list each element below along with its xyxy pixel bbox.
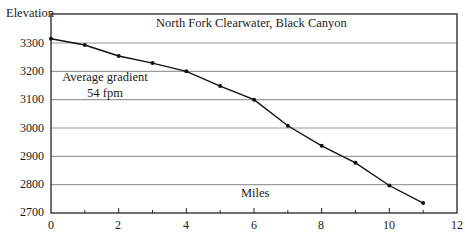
data-point xyxy=(387,184,391,188)
y-tick-3300: 3300 xyxy=(0,36,44,51)
data-point xyxy=(151,61,155,65)
y-tick-3100: 3100 xyxy=(0,92,44,107)
x-axis-label: Miles xyxy=(241,186,269,201)
data-point xyxy=(218,84,222,88)
x-tick-6: 6 xyxy=(239,218,269,233)
x-tick-2: 2 xyxy=(103,218,133,233)
data-point xyxy=(117,54,121,58)
data-point xyxy=(286,124,290,128)
x-tick-8: 8 xyxy=(306,218,336,233)
annotation-line-1: Average gradient xyxy=(60,69,150,85)
y-tick-2900: 2900 xyxy=(0,149,44,164)
gradient-annotation: Average gradient 54 fpm xyxy=(60,69,150,101)
y-tick-3200: 3200 xyxy=(0,64,44,79)
chart-title: North Fork Clearwater, Black Canyon xyxy=(156,16,347,31)
x-tick-12: 12 xyxy=(442,218,465,233)
data-point xyxy=(49,37,53,41)
y-tick-2800: 2800 xyxy=(0,177,44,192)
y-axis-label: Elevation xyxy=(6,6,54,21)
x-tick-4: 4 xyxy=(171,218,201,233)
data-point xyxy=(252,98,256,102)
data-point xyxy=(320,144,324,148)
data-point xyxy=(421,201,425,205)
plot-frame xyxy=(51,14,457,213)
data-point xyxy=(184,69,188,73)
x-tick-10: 10 xyxy=(374,218,404,233)
elevation-chart: Elevation North Fork Clearwater, Black C… xyxy=(0,0,465,243)
annotation-line-2: 54 fpm xyxy=(60,85,150,101)
x-tick-0: 0 xyxy=(36,218,66,233)
data-point xyxy=(354,161,358,165)
plot-area xyxy=(0,0,465,243)
data-point xyxy=(83,43,87,47)
y-tick-3000: 3000 xyxy=(0,121,44,136)
elevation-line xyxy=(51,39,423,203)
